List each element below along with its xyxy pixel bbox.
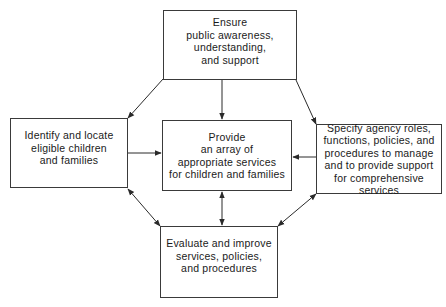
node-label: Provide an array of appropriate services…: [169, 131, 285, 181]
diagram-canvas: Ensure public awareness, understanding, …: [0, 0, 446, 307]
node-ensure-public-awareness: Ensure public awareness, understanding, …: [163, 10, 297, 80]
node-label: Specify agency roles, functions, policie…: [323, 122, 434, 197]
node-evaluate-and-improve: Evaluate and improve services, policies,…: [160, 226, 278, 298]
node-label: Evaluate and improve services, policies,…: [166, 237, 272, 275]
node-specify-agency-roles: Specify agency roles, functions, policie…: [316, 124, 442, 194]
node-label: Identify and locate eligible children an…: [24, 129, 113, 167]
arrow-top-to-left: [128, 79, 163, 118]
node-label: Ensure public awareness, understanding, …: [186, 16, 273, 66]
node-identify-eligible-children: Identify and locate eligible children an…: [10, 118, 128, 188]
arrow-left-bottom: [128, 189, 160, 226]
node-provide-services: Provide an array of appropriate services…: [162, 120, 292, 191]
arrow-top-to-right: [296, 80, 316, 124]
arrow-right-bottom: [278, 194, 316, 226]
